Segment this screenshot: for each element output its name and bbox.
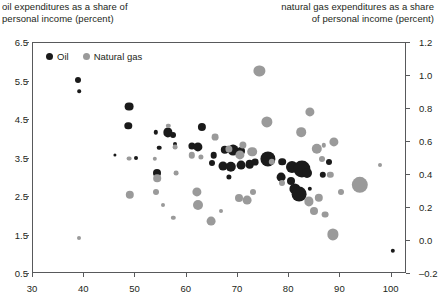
y2-tick-mark xyxy=(406,273,410,274)
data-bubble xyxy=(166,123,170,127)
x-axis: 30405060708090100 xyxy=(32,277,406,291)
data-bubble xyxy=(219,209,223,213)
data-bubble xyxy=(170,132,176,138)
data-bubble xyxy=(261,117,272,128)
y-tick-mark xyxy=(25,42,29,43)
data-bubble xyxy=(320,171,326,177)
legend-label: Oil xyxy=(57,51,69,62)
y2-tick-label: –0.2 xyxy=(419,268,438,279)
data-bubble xyxy=(226,162,236,172)
data-bubble xyxy=(328,229,339,240)
data-bubble xyxy=(198,154,203,159)
data-bubble xyxy=(189,152,195,158)
x-tick-mark xyxy=(186,273,187,277)
x-tick-label: 60 xyxy=(180,283,191,294)
data-bubble xyxy=(77,89,81,93)
y-tick-mark xyxy=(25,158,29,159)
x-tick-mark xyxy=(134,273,135,277)
data-bubble xyxy=(239,142,246,149)
y-tick-mark xyxy=(25,235,29,236)
legend-item-natural_gas[interactable]: Natural gas xyxy=(83,51,143,62)
data-bubble xyxy=(153,189,159,195)
legend: OilNatural gas xyxy=(46,51,142,62)
left-axis-title: oil expenditures as a share of personal … xyxy=(2,1,128,25)
legend-item-oil[interactable]: Oil xyxy=(46,51,69,62)
y2-tick-mark xyxy=(406,108,410,109)
data-bubble xyxy=(153,175,161,183)
y-tick-mark xyxy=(25,81,29,82)
legend-marker-icon xyxy=(46,53,53,60)
x-tick-label: 50 xyxy=(129,283,140,294)
data-bubble xyxy=(193,142,202,151)
data-bubble xyxy=(254,65,265,76)
data-bubble xyxy=(297,127,307,137)
data-bubble xyxy=(302,168,312,178)
y-tick-mark xyxy=(25,273,29,274)
data-bubble xyxy=(226,174,231,179)
data-bubble xyxy=(278,158,286,166)
data-bubble xyxy=(315,194,323,202)
x-tick-mark xyxy=(32,273,33,277)
right-axis: –0.20.00.20.40.60.81.01.2 xyxy=(410,42,437,273)
data-bubble xyxy=(174,171,179,176)
left-axis: 0.51.52.53.54.55.56.5 xyxy=(0,42,28,273)
data-bubble xyxy=(250,189,256,195)
x-tick-mark xyxy=(83,273,84,277)
data-bubble xyxy=(330,137,339,146)
data-bubble xyxy=(127,156,132,161)
y2-tick-label: 1.0 xyxy=(419,70,432,81)
x-tick-label: 70 xyxy=(232,283,243,294)
x-tick-label: 100 xyxy=(383,283,399,294)
data-bubble xyxy=(235,194,243,202)
y2-tick-mark xyxy=(406,174,410,175)
y2-tick-label: 0.4 xyxy=(419,169,432,180)
data-bubble xyxy=(125,102,134,111)
x-tick-mark xyxy=(391,273,392,277)
data-bubble xyxy=(113,153,116,156)
x-tick-mark xyxy=(288,273,289,277)
x-tick-label: 40 xyxy=(78,283,89,294)
data-bubble xyxy=(198,123,206,131)
y2-tick-mark xyxy=(406,75,410,76)
data-bubble xyxy=(212,134,219,141)
data-bubble xyxy=(322,211,329,218)
data-bubble xyxy=(207,217,216,226)
data-bubble xyxy=(338,189,344,195)
data-bubble xyxy=(252,159,259,166)
data-bubble xyxy=(193,200,203,210)
data-bubble xyxy=(305,108,314,117)
data-bubble xyxy=(307,186,311,190)
data-bubble xyxy=(157,145,162,150)
data-bubble xyxy=(279,180,285,186)
data-bubble xyxy=(319,156,325,162)
data-bubble xyxy=(310,207,318,215)
data-bubble xyxy=(322,143,326,147)
y2-tick-label: 1.2 xyxy=(419,37,432,48)
data-bubble xyxy=(304,197,313,206)
y2-tick-mark xyxy=(406,240,410,241)
y2-tick-label: 0.8 xyxy=(419,103,432,114)
data-bubble xyxy=(327,172,333,178)
data-bubble xyxy=(125,122,132,129)
data-bubble xyxy=(211,152,218,159)
y2-tick-label: 0.0 xyxy=(419,235,432,246)
data-bubble xyxy=(134,156,138,160)
data-bubble xyxy=(378,163,382,167)
y2-tick-label: 0.2 xyxy=(419,202,432,213)
data-bubble xyxy=(192,187,201,196)
legend-label: Natural gas xyxy=(94,51,143,62)
data-bubble xyxy=(161,203,165,207)
data-bubble xyxy=(75,77,81,83)
data-bubble xyxy=(154,130,158,134)
data-bubble xyxy=(326,159,332,165)
y-tick-mark xyxy=(25,196,29,197)
y2-tick-mark xyxy=(406,141,410,142)
data-bubble xyxy=(171,216,175,220)
data-bubble xyxy=(269,159,275,165)
y2-tick-label: 0.6 xyxy=(419,136,432,147)
data-bubble xyxy=(390,249,394,253)
y2-tick-mark xyxy=(406,42,410,43)
data-bubble xyxy=(209,160,215,166)
x-tick-mark xyxy=(339,273,340,277)
